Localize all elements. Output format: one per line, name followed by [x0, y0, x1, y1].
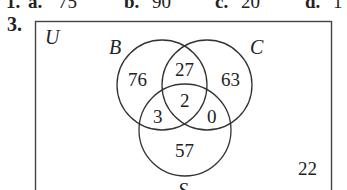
set-b-label: B — [109, 36, 121, 58]
region-b-s: 3 — [153, 106, 163, 127]
region-b-only: 76 — [128, 69, 147, 90]
set-c-label: C — [250, 36, 264, 58]
venn-diagram: U B C S 76 27 63 2 3 0 57 22 — [0, 0, 347, 190]
region-b-c-s: 2 — [180, 90, 190, 111]
region-b-c: 27 — [175, 59, 194, 80]
region-c-only: 63 — [221, 69, 240, 90]
region-s-only: 57 — [175, 140, 194, 161]
universe-label: U — [45, 26, 61, 48]
region-outside: 22 — [298, 158, 317, 179]
set-s-label: S — [178, 179, 188, 190]
region-c-s: 0 — [207, 106, 217, 127]
